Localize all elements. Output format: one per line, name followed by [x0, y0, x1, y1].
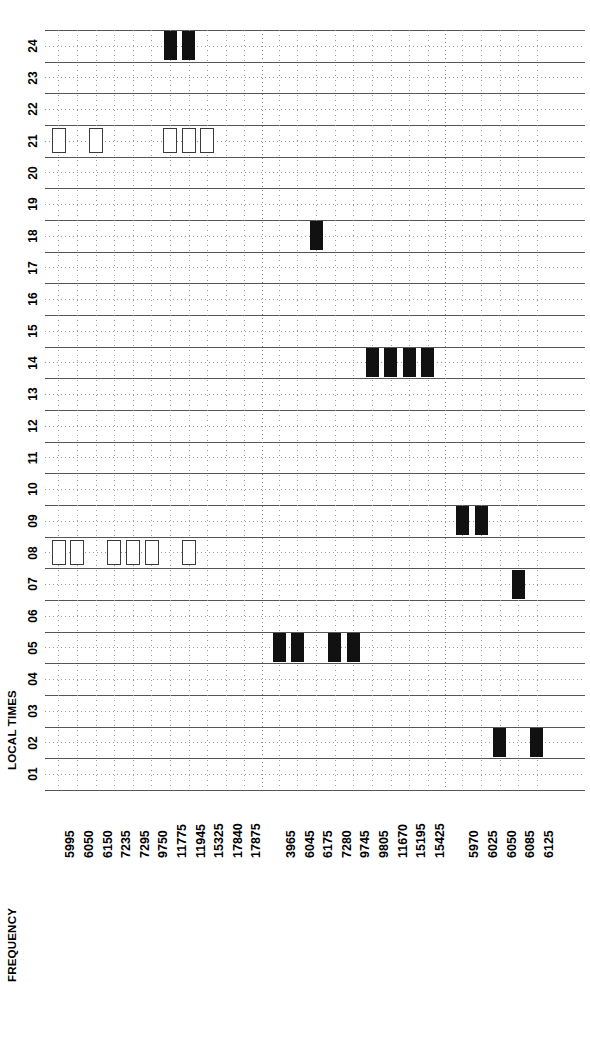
grid-line-horizontal-minor [45, 109, 585, 110]
schedule-block-open[interactable] [89, 128, 103, 153]
grid-line-horizontal [45, 347, 585, 348]
grid-line-horizontal-minor [45, 267, 585, 268]
grid-line-vertical [114, 30, 115, 790]
grid-line-horizontal [45, 568, 585, 569]
time-axis-label: 20 [26, 162, 40, 184]
schedule-block-open[interactable] [200, 128, 214, 153]
time-axis-label: 15 [26, 320, 40, 342]
schedule-block-open[interactable] [52, 540, 66, 565]
schedule-block-filled[interactable] [493, 728, 506, 757]
grid-line-horizontal-minor [45, 616, 585, 617]
schedule-block-filled[interactable] [328, 633, 341, 662]
grid-line-horizontal [45, 410, 585, 411]
time-axis-label: 24 [26, 35, 40, 57]
grid-line-vertical [500, 30, 501, 790]
schedule-block-filled[interactable] [291, 633, 304, 662]
schedule-block-filled[interactable] [347, 633, 360, 662]
frequency-axis-title: FREQUENCY [6, 908, 18, 982]
schedule-block-open[interactable] [182, 540, 196, 565]
grid-line-vertical [77, 30, 78, 790]
time-axis-label: 04 [26, 668, 40, 690]
grid-line-horizontal-minor [45, 489, 585, 490]
time-axis-label: 19 [26, 193, 40, 215]
grid-line-vertical [297, 30, 298, 790]
grid-line-horizontal-minor [45, 204, 585, 205]
schedule-block-open[interactable] [145, 540, 159, 565]
grid-line-horizontal-minor [45, 394, 585, 395]
grid-line-horizontal [45, 473, 585, 474]
grid-line-horizontal-minor [45, 457, 585, 458]
time-axis-label: 02 [26, 732, 40, 754]
schedule-block-filled[interactable] [273, 633, 286, 662]
schedule-block-filled[interactable] [421, 348, 434, 377]
time-axis-label: 09 [26, 510, 40, 532]
schedule-block-filled[interactable] [310, 221, 323, 250]
grid-line-horizontal [45, 632, 585, 633]
time-axis-label: 06 [26, 605, 40, 627]
group-separator [262, 30, 263, 790]
time-axis-label: 16 [26, 288, 40, 310]
grid-line-horizontal [45, 93, 585, 94]
local-times-axis-title: LOCAL TIMES [6, 690, 18, 770]
schedule-block-filled[interactable] [366, 348, 379, 377]
grid-line-horizontal [45, 188, 585, 189]
plot-area [45, 30, 585, 790]
schedule-block-open[interactable] [70, 540, 84, 565]
grid-line-vertical [391, 30, 392, 790]
schedule-block-filled[interactable] [403, 348, 416, 377]
grid-line-horizontal-minor [45, 679, 585, 680]
grid-line-horizontal-minor [45, 331, 585, 332]
time-axis-label: 18 [26, 225, 40, 247]
time-axis-label: 10 [26, 478, 40, 500]
schedule-block-filled[interactable] [456, 506, 469, 535]
time-axis-label: 17 [26, 257, 40, 279]
grid-line-horizontal-minor [45, 77, 585, 78]
grid-line-horizontal [45, 157, 585, 158]
grid-line-vertical [409, 30, 410, 790]
grid-line-horizontal-minor [45, 172, 585, 173]
schedule-block-filled[interactable] [512, 570, 525, 599]
grid-line-vertical [316, 30, 317, 790]
grid-line-horizontal [45, 442, 585, 443]
grid-line-horizontal [45, 125, 585, 126]
grid-line-horizontal-minor [45, 711, 585, 712]
grid-line-vertical [133, 30, 134, 790]
frequency-axis: 5995605061507235729597501177511945153251… [45, 792, 585, 912]
schedule-block-open[interactable] [182, 128, 196, 153]
grid-line-horizontal [45, 315, 585, 316]
time-axis-label: 03 [26, 700, 40, 722]
time-axis-label: 05 [26, 637, 40, 659]
grid-line-horizontal [45, 62, 585, 63]
time-axis-label: 11 [26, 447, 40, 469]
frequency-axis-label: 6125 [542, 844, 590, 858]
grid-line-horizontal [45, 378, 585, 379]
schedule-block-filled[interactable] [530, 728, 543, 757]
grid-line-vertical [226, 30, 227, 790]
schedule-block-open[interactable] [52, 128, 66, 153]
schedule-block-filled[interactable] [475, 506, 488, 535]
group-separator [445, 30, 446, 790]
schedule-block-open[interactable] [107, 540, 121, 565]
schedule-block-open[interactable] [163, 128, 177, 153]
schedule-block-filled[interactable] [384, 348, 397, 377]
grid-line-horizontal [45, 283, 585, 284]
schedule-block-filled[interactable] [182, 31, 195, 60]
grid-line-horizontal [45, 758, 585, 759]
schedule-block-filled[interactable] [164, 31, 177, 60]
grid-line-vertical [537, 30, 538, 790]
grid-line-horizontal-minor [45, 584, 585, 585]
schedule-block-open[interactable] [126, 540, 140, 565]
grid-line-horizontal-minor [45, 774, 585, 775]
time-axis-label: 22 [26, 98, 40, 120]
grid-line-horizontal-minor [45, 426, 585, 427]
time-axis-label: 07 [26, 573, 40, 595]
time-axis-label: 21 [26, 130, 40, 152]
grid-line-horizontal [45, 537, 585, 538]
grid-line-vertical [462, 30, 463, 790]
grid-line-horizontal [45, 695, 585, 696]
time-axis-label: 08 [26, 542, 40, 564]
grid-line-vertical [372, 30, 373, 790]
grid-line-horizontal [45, 505, 585, 506]
grid-line-horizontal-minor [45, 46, 585, 47]
broadcast-schedule-chart: LOCAL TIMES FREQUENCY 010203040506070809… [0, 0, 590, 1048]
